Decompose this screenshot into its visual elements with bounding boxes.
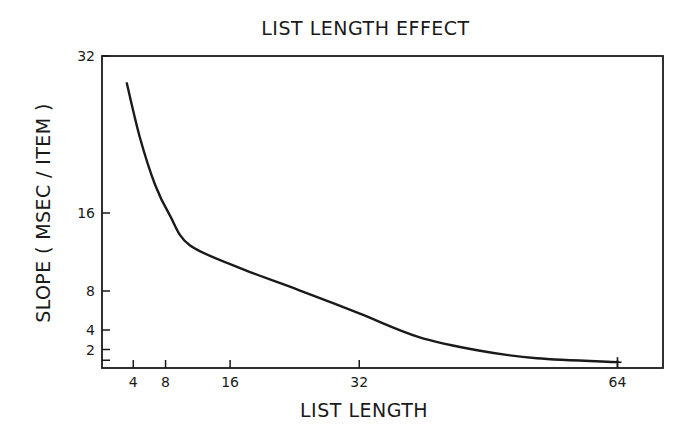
y-tick-label: 8 [86,283,95,299]
x-tick-label: 32 [350,374,368,390]
y-tick-label: 16 [77,205,95,221]
y-tick-label: 4 [86,322,95,338]
y-tick-label: 2 [86,342,95,358]
plot-area: 48163264 2481632 [0,0,691,443]
x-axis-ticks: 48163264 [129,360,627,390]
y-tick-label: 32 [77,48,95,64]
plot-frame [102,56,663,368]
x-tick-label: 16 [221,374,239,390]
x-tick-label: 8 [161,374,170,390]
x-tick-label: 64 [609,374,627,390]
y-axis-ticks: 2481632 [77,48,110,360]
x-tick-label: 4 [129,374,138,390]
data-curve [127,83,618,362]
end-marker-icon [613,357,621,368]
